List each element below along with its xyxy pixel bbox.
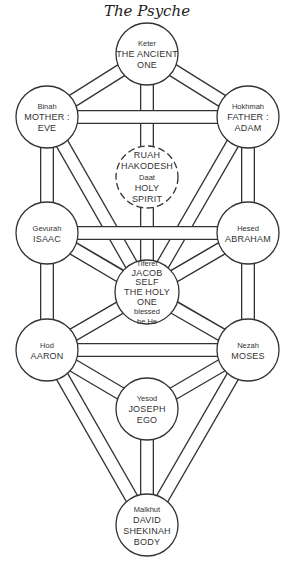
- attribute-text: EGO: [137, 415, 158, 425]
- sefirah-malkhut: MalkhutDAVIDSHEKINAHBODY: [116, 494, 178, 556]
- attribute-text: THE HOLY: [124, 287, 170, 297]
- sefirah-gevurah: GevurahISAAC: [16, 202, 78, 264]
- attribute-text: MOSES: [231, 351, 265, 361]
- attribute-text: SELF: [135, 277, 159, 287]
- sefirah-name: Binah: [37, 102, 56, 111]
- attribute-text: FATHER :: [227, 112, 268, 122]
- attribute-text: RUAH: [134, 150, 160, 160]
- attribute-text: HOLY: [135, 183, 160, 193]
- attribute-text: BODY: [134, 537, 160, 547]
- sefirah-name: Keter: [138, 39, 156, 48]
- attribute-text: MOTHER :: [24, 112, 70, 122]
- attribute-text: ABRAHAM: [225, 234, 271, 244]
- attribute-note: blessed: [134, 307, 160, 316]
- sefirah-hokhmah: HokhmahFATHER :ADAM: [217, 86, 279, 148]
- sefirah-tiferet: TiferetJACOBSELFTHE HOLYONEblessedbe He: [115, 259, 179, 326]
- sefirah-name: Hokhmah: [232, 102, 264, 111]
- attribute-text: THE ANCIENT: [116, 49, 178, 59]
- attribute-text: AARON: [30, 351, 63, 361]
- sefirah-name: Gevurah: [33, 224, 62, 233]
- attribute-text: JOSEPH: [128, 404, 165, 414]
- sefirah-keter: KeterTHE ANCIENTONE: [116, 23, 178, 85]
- attribute-text: DAVID: [133, 515, 161, 525]
- sefirah-hesed: HesedABRAHAM: [217, 202, 279, 264]
- attribute-text: ONE: [137, 297, 157, 307]
- sefirah-name: Yesod: [137, 394, 158, 403]
- sefirah-yesod: YesodJOSEPHEGO: [116, 378, 178, 440]
- sefirah-name: Hod: [40, 341, 54, 350]
- attribute-text: EVE: [38, 123, 57, 133]
- attribute-text: ISAAC: [33, 234, 61, 244]
- attribute-text: JACOB: [131, 268, 162, 278]
- attribute-text: ONE: [137, 60, 157, 70]
- sefirah-binah: BinahMOTHER :EVE: [16, 86, 78, 148]
- attribute-text: SPIRIT: [132, 194, 163, 204]
- sefirah-nezah: NezahMOSES: [217, 319, 279, 381]
- sefirah-daat: RUAHHAKODESHDaatHOLYSPIRIT: [116, 146, 178, 208]
- sefirah-name: Malkhut: [134, 505, 161, 514]
- sefirah-hod: HodAARON: [16, 319, 78, 381]
- attribute-text: HAKODESH: [121, 161, 173, 171]
- attribute-note: be He: [137, 317, 157, 326]
- sefirah-name: Hesed: [237, 224, 259, 233]
- sefirah-name: Daat: [139, 173, 156, 182]
- sefirah-name: Nezah: [237, 341, 259, 350]
- attribute-text: ADAM: [235, 123, 262, 133]
- attribute-text: SHEKINAH: [123, 526, 171, 536]
- tree-of-life-diagram: KeterTHE ANCIENTONEBinahMOTHER :EVEHokhm…: [0, 0, 294, 567]
